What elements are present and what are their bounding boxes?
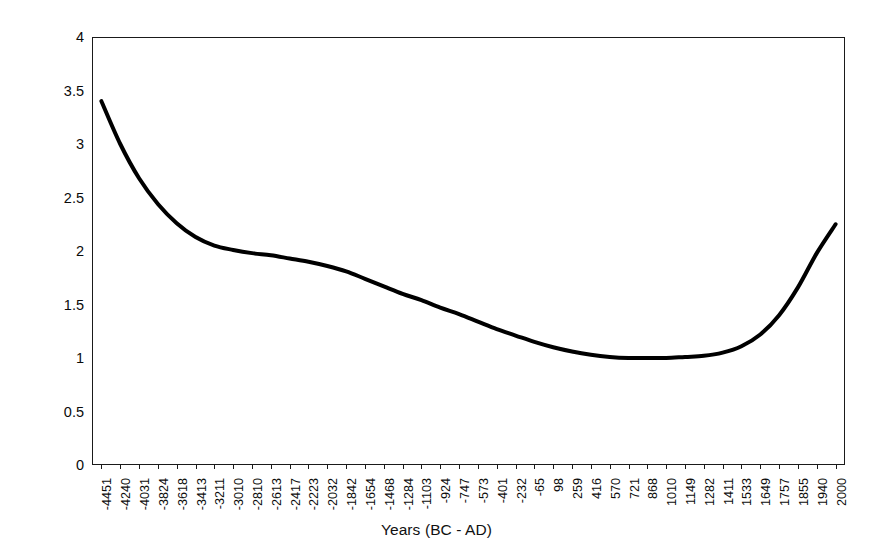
x-tick-mark — [779, 465, 780, 469]
y-tick-label: 0 — [40, 458, 84, 472]
y-tick-label: 0.5 — [40, 405, 84, 419]
x-tick-mark — [741, 465, 742, 469]
y-tick-label: 2.5 — [40, 191, 84, 205]
x-tick-mark — [158, 465, 159, 469]
x-tick-mark — [384, 465, 385, 469]
y-tick-label: 1.5 — [40, 298, 84, 312]
x-tick-mark — [610, 465, 611, 469]
y-tick-label: 4 — [40, 30, 84, 44]
x-tick-mark — [196, 465, 197, 469]
x-tick-mark — [233, 465, 234, 469]
x-tick-mark — [290, 465, 291, 469]
x-axis-title: Years (BC - AD) — [0, 521, 873, 539]
x-tick-mark — [327, 465, 328, 469]
x-tick-mark — [120, 465, 121, 469]
x-tick-mark — [836, 465, 837, 469]
x-axis-tick-labels: -4451-4240-4031-3824-3618-3413-3211-3010… — [92, 465, 845, 525]
y-tick-label: 2 — [40, 244, 84, 258]
x-tick-mark — [685, 465, 686, 469]
x-tick-mark — [346, 465, 347, 469]
x-tick-mark — [271, 465, 272, 469]
x-tick-mark — [704, 465, 705, 469]
x-tick-mark — [252, 465, 253, 469]
x-tick-mark — [534, 465, 535, 469]
x-tick-mark — [365, 465, 366, 469]
x-tick-mark — [572, 465, 573, 469]
x-tick-mark — [177, 465, 178, 469]
x-tick-mark — [421, 465, 422, 469]
x-tick-mark — [817, 465, 818, 469]
x-tick-mark — [440, 465, 441, 469]
y-axis-tick-labels: 43.532.521.510.50 — [40, 37, 84, 465]
x-tick-mark — [139, 465, 140, 469]
x-tick-mark — [214, 465, 215, 469]
y-tick-label: 3 — [40, 137, 84, 151]
x-tick-mark — [723, 465, 724, 469]
x-tick-mark — [553, 465, 554, 469]
x-tick-mark — [101, 465, 102, 469]
x-tick-mark — [308, 465, 309, 469]
x-tick-mark — [591, 465, 592, 469]
y-tick-label: 1 — [40, 351, 84, 365]
x-tick-mark — [629, 465, 630, 469]
curve-path — [101, 101, 835, 358]
x-tick-mark — [459, 465, 460, 469]
x-tick-mark — [666, 465, 667, 469]
x-tick-mark — [403, 465, 404, 469]
x-tick-mark — [497, 465, 498, 469]
x-tick-mark — [478, 465, 479, 469]
x-tick-mark — [798, 465, 799, 469]
x-tick-mark — [760, 465, 761, 469]
y-tick-label: 3.5 — [40, 84, 84, 98]
pollen-line-chart: Arboreal/NonArboreal Pollen % 43.532.521… — [0, 0, 873, 559]
pollen-ratio-curve — [92, 37, 845, 465]
x-tick-mark — [516, 465, 517, 469]
x-tick-mark — [647, 465, 648, 469]
